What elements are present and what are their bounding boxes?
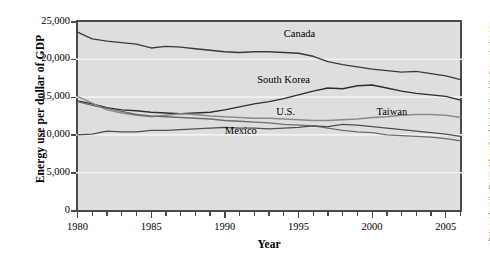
chart-figure: Energy use per dollar of GDP 05,00010,00… [0,0,490,264]
x-tick-label: 2005 [423,221,469,232]
x-tick-label: 1980 [55,221,101,232]
x-tick-mark-minor [136,212,137,216]
x-tick-mark-minor [195,212,196,216]
series-line [78,32,461,80]
series-label-south-korea: South Korea [257,74,310,85]
x-tick-mark-major [151,212,152,218]
x-tick-mark-minor [165,212,166,216]
x-tick-mark-minor [106,212,107,216]
x-tick-mark-minor [357,212,358,216]
x-tick-mark-minor [327,212,328,216]
x-tick-mark-minor [92,212,93,216]
x-tick-label: 2000 [349,221,395,232]
x-axis-title: Year [76,238,462,250]
x-tick-label: 1990 [202,221,248,232]
x-tick-mark-minor [254,212,255,216]
x-tick-mark-minor [342,212,343,216]
y-tick-label: 5,000 [12,167,70,178]
x-tick-mark-minor [401,212,402,216]
x-tick-label: 1985 [128,221,174,232]
x-tick-mark-minor [313,212,314,216]
x-tick-mark-major [224,212,225,218]
series-label-canada: Canada [284,28,316,39]
x-tick-mark-minor [268,212,269,216]
x-tick-mark-minor [460,212,461,216]
x-tick-mark-minor [239,212,240,216]
x-tick-mark-minor [209,212,210,216]
x-tick-mark-minor [430,212,431,216]
x-axis-tick-labels: 198019851990199520002005 [0,216,490,236]
y-tick-label: 15,000 [12,91,70,102]
y-tick-label: 20,000 [12,53,70,64]
x-tick-mark-major [372,212,373,218]
x-tick-mark-minor [180,212,181,216]
series-label-taiwan: Taiwan [377,106,408,117]
y-tick-label: 10,000 [12,129,70,140]
x-tick-mark-minor [416,212,417,216]
y-tick-label: 25,000 [12,16,70,27]
x-tick-mark-major [298,212,299,218]
x-tick-mark-minor [386,212,387,216]
series-label-mexico: Mexico [225,125,257,136]
x-tick-mark-minor [283,212,284,216]
series-label-u-s: U.S. [276,106,295,117]
x-tick-mark-minor [121,212,122,216]
x-tick-mark-major [445,212,446,218]
y-tick-label: 0 [12,205,70,216]
x-tick-mark-major [77,212,78,218]
x-tick-label: 1995 [275,221,321,232]
